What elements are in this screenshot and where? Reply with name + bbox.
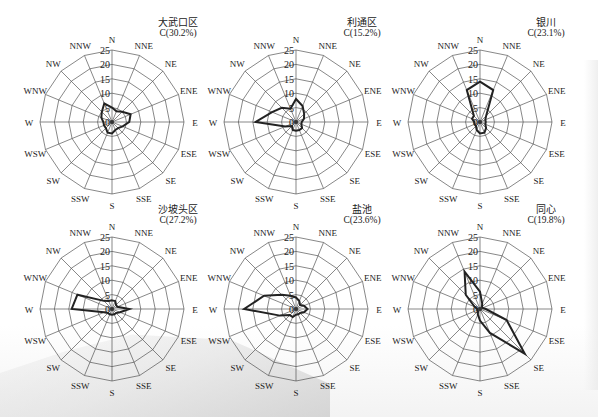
direction-label: WNW — [392, 86, 416, 96]
direction-label: S — [109, 201, 114, 211]
grid-spoke — [61, 122, 112, 173]
direction-label: NW — [46, 59, 61, 69]
ring-label: 20 — [284, 246, 294, 257]
direction-label: SSE — [320, 381, 336, 391]
calm-frequency-label: C(19.8%) — [527, 215, 564, 226]
ring-label: 5 — [105, 290, 110, 301]
direction-label: E — [376, 118, 382, 128]
direction-label: N — [293, 222, 300, 232]
direction-label: SSE — [504, 194, 520, 204]
direction-label: NW — [230, 246, 245, 256]
ring-label: 20 — [100, 246, 110, 257]
station-title: 利通区 — [347, 17, 377, 28]
grid-spoke — [296, 309, 347, 360]
ring-label: 0 — [289, 304, 294, 315]
direction-label: NNE — [135, 228, 154, 238]
grid-spoke — [61, 309, 112, 360]
grid-spoke — [112, 309, 163, 360]
station-title: 盐池 — [352, 203, 372, 215]
direction-label: ESE — [181, 336, 198, 346]
direction-label: NNW — [253, 41, 275, 51]
direction-label: S — [293, 388, 298, 398]
center-dot — [294, 307, 298, 311]
grid-spoke — [245, 122, 296, 173]
direction-label: S — [477, 201, 482, 211]
direction-label: SW — [47, 176, 61, 186]
grid-spoke — [112, 258, 163, 309]
ring-label: 20 — [468, 59, 478, 70]
direction-label: SSW — [439, 381, 458, 391]
direction-label: WSW — [392, 336, 415, 346]
calm-frequency-label: C(23.6%) — [343, 215, 380, 226]
direction-label: WSW — [208, 336, 231, 346]
direction-label: SSW — [71, 381, 90, 391]
ring-label: 5 — [473, 290, 478, 301]
direction-label: NW — [414, 246, 429, 256]
direction-label: W — [209, 118, 218, 128]
direction-label: SSW — [71, 194, 90, 204]
calm-frequency-label: C(27.2%) — [159, 215, 196, 226]
direction-label: NNE — [135, 41, 154, 51]
direction-label: SSW — [255, 194, 274, 204]
calm-frequency-label: C(30.2%) — [159, 28, 196, 39]
direction-label: WNW — [208, 273, 232, 283]
direction-label: SE — [165, 363, 176, 373]
ring-label: 25 — [100, 232, 110, 243]
direction-label: WSW — [24, 149, 47, 159]
grid-spoke — [429, 309, 480, 360]
ring-label: 20 — [284, 59, 294, 70]
direction-label: ESE — [549, 336, 566, 346]
direction-label: W — [25, 118, 34, 128]
wind-rose-panel: 0510152025NNNENEENEEESESESSESSSWSWWSWWWN… — [392, 204, 567, 398]
direction-label: NNW — [69, 41, 91, 51]
direction-label: NNW — [437, 41, 459, 51]
grid-spoke — [429, 122, 480, 173]
center-dot — [478, 120, 482, 124]
direction-label: WNW — [24, 273, 48, 283]
direction-label: NNW — [253, 228, 275, 238]
direction-label: N — [109, 35, 116, 45]
direction-label: SE — [533, 176, 544, 186]
direction-label: E — [560, 305, 566, 315]
direction-label: SSW — [439, 194, 458, 204]
direction-label: NE — [349, 59, 361, 69]
direction-label: NNW — [437, 228, 459, 238]
wind-rose-panel: 0510152025NNNENEENEEESESESSESSSWSWWSWWWN… — [392, 16, 567, 211]
direction-label: NW — [46, 246, 61, 256]
ring-label: 15 — [468, 261, 478, 272]
ring-label: 10 — [100, 88, 110, 99]
direction-label: ENE — [548, 273, 566, 283]
direction-label: SE — [349, 363, 360, 373]
direction-label: WNW — [24, 86, 48, 96]
wind-rose-panel: 0510152025NNNENEENEEESESESSESSSWSWWSWWWN… — [24, 16, 199, 211]
direction-label: SW — [415, 363, 429, 373]
ring-label: 25 — [468, 45, 478, 56]
grid-spoke — [112, 71, 163, 122]
direction-label: E — [376, 305, 382, 315]
direction-label: SE — [533, 363, 544, 373]
direction-label: NNE — [503, 228, 522, 238]
grid-spoke — [245, 309, 296, 360]
direction-label: S — [109, 388, 114, 398]
direction-label: NNE — [503, 41, 522, 51]
grid-spoke — [480, 71, 531, 122]
direction-label: NE — [165, 246, 177, 256]
wind-rose-grid: 0510152025NNNENEENEEESESESSESSSWSWWSWWWN… — [0, 0, 598, 417]
direction-label: NNE — [319, 41, 338, 51]
direction-label: ENE — [364, 86, 382, 96]
grid-spoke — [296, 122, 347, 173]
direction-label: ESE — [549, 149, 566, 159]
direction-label: E — [192, 305, 198, 315]
direction-label: SE — [165, 176, 176, 186]
ring-label: 15 — [284, 261, 294, 272]
grid-spoke — [112, 122, 163, 173]
direction-label: N — [109, 222, 116, 232]
direction-label: WNW — [208, 86, 232, 96]
station-title: 同心 — [536, 204, 556, 215]
direction-label: ESE — [365, 336, 382, 346]
direction-label: NE — [533, 246, 545, 256]
center-dot — [110, 307, 114, 311]
direction-label: ESE — [181, 149, 198, 159]
grid-spoke — [296, 258, 347, 309]
ring-label: 10 — [100, 275, 110, 286]
